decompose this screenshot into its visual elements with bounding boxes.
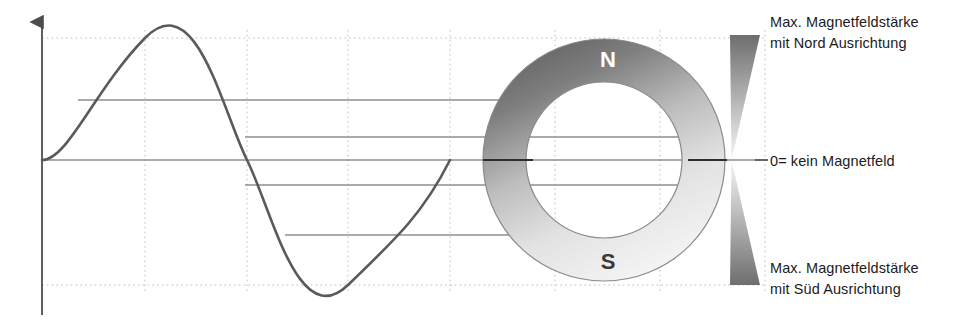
label-max-south: Max. Magnetfeldstärke mit Süd Ausrichtun… (770, 258, 919, 299)
diagram-canvas: N S Max. Magnetfeldstärke mit Nord Ausri… (0, 0, 978, 322)
bowtie-upper (730, 35, 760, 160)
bowtie-lower (730, 160, 760, 285)
label-zero-field: 0= kein Magnetfeld (770, 151, 895, 172)
sine-wave (42, 26, 450, 296)
pole-label-north: N (600, 47, 616, 72)
label-max-north: Max. Magnetfeldstärke mit Nord Ausrichtu… (770, 12, 919, 53)
pole-label-south: S (601, 249, 616, 274)
field-arrows (78, 100, 698, 235)
